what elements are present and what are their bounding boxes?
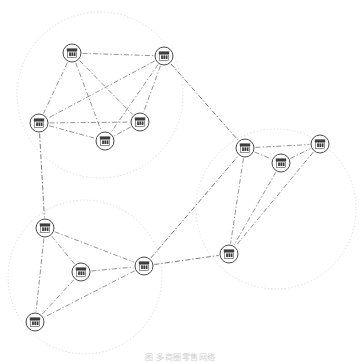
graph-node[interactable] bbox=[26, 313, 44, 331]
store-window-icon-3 bbox=[107, 140, 109, 144]
inter-cluster-edge bbox=[151, 156, 238, 258]
store-awning-icon bbox=[240, 143, 250, 146]
graph-node[interactable] bbox=[30, 114, 48, 132]
intra-cluster-edge bbox=[290, 149, 310, 159]
graph-node[interactable] bbox=[236, 139, 254, 157]
store-awning-icon bbox=[40, 223, 50, 226]
intra-cluster-edge bbox=[82, 53, 153, 55]
network-diagram-canvas: 图 多商圈零售网络 bbox=[0, 0, 361, 363]
store-window-icon-2 bbox=[143, 265, 145, 269]
store-awning-icon bbox=[100, 136, 110, 139]
inter-cluster-edge bbox=[40, 133, 45, 217]
graph-node[interactable] bbox=[63, 44, 81, 62]
store-window-icon-3 bbox=[283, 162, 285, 166]
store-window-icon-1 bbox=[78, 271, 80, 275]
store-window-icon-3 bbox=[142, 121, 144, 125]
store-window-icon-2 bbox=[228, 253, 230, 257]
store-window-icon-1 bbox=[317, 143, 319, 147]
intra-cluster-edge bbox=[49, 126, 95, 138]
store-window-icon-1 bbox=[141, 265, 143, 269]
network-graph bbox=[0, 0, 361, 363]
intra-cluster-edge bbox=[255, 145, 309, 148]
store-window-icon-1 bbox=[32, 321, 34, 325]
store-awning-icon bbox=[224, 249, 234, 252]
intra-cluster-edge bbox=[52, 236, 75, 264]
store-window-icon-3 bbox=[231, 253, 233, 257]
inter-cluster-edge bbox=[171, 64, 238, 140]
store-window-icon-3 bbox=[322, 143, 324, 147]
intra-cluster-edge bbox=[234, 172, 276, 245]
graph-node[interactable] bbox=[131, 113, 149, 131]
graph-node[interactable] bbox=[155, 47, 173, 65]
store-awning-icon bbox=[30, 317, 40, 320]
intra-cluster-edge bbox=[44, 271, 134, 317]
cluster-ring bbox=[196, 129, 356, 289]
inter-cluster-edge bbox=[154, 255, 218, 264]
store-window-icon-1 bbox=[278, 162, 280, 166]
store-window-icon-3 bbox=[166, 55, 168, 59]
intra-cluster-edge bbox=[231, 158, 244, 243]
cluster-ring bbox=[17, 12, 183, 178]
store-window-icon-1 bbox=[161, 55, 163, 59]
store-window-icon-2 bbox=[80, 271, 82, 275]
intra-cluster-edge bbox=[42, 280, 74, 315]
graph-node[interactable] bbox=[135, 257, 153, 275]
store-window-icon-2 bbox=[319, 143, 321, 147]
intra-cluster-edge bbox=[144, 66, 161, 112]
store-window-icon-3 bbox=[47, 227, 49, 231]
store-window-icon-3 bbox=[83, 271, 85, 275]
store-window-icon-1 bbox=[226, 253, 228, 257]
store-window-icon-2 bbox=[163, 55, 165, 59]
store-awning-icon bbox=[276, 158, 286, 161]
store-window-icon-1 bbox=[242, 147, 244, 151]
store-window-icon-1 bbox=[137, 121, 139, 125]
intra-cluster-edge bbox=[255, 152, 272, 159]
store-awning-icon bbox=[76, 267, 86, 270]
store-window-icon-2 bbox=[280, 162, 282, 166]
store-awning-icon bbox=[139, 261, 149, 264]
intra-cluster-edge bbox=[76, 63, 102, 131]
store-window-icon-2 bbox=[38, 122, 40, 126]
store-window-icon-3 bbox=[247, 147, 249, 151]
store-window-icon-2 bbox=[244, 147, 246, 151]
graph-node[interactable] bbox=[72, 263, 90, 281]
store-window-icon-2 bbox=[71, 52, 73, 56]
store-awning-icon bbox=[159, 51, 169, 54]
store-window-icon-1 bbox=[69, 52, 71, 56]
graph-node[interactable] bbox=[311, 135, 329, 153]
graph-node[interactable] bbox=[220, 245, 238, 263]
figure-caption: 图 多商圈零售网络 bbox=[0, 353, 361, 363]
store-window-icon-2 bbox=[139, 121, 141, 125]
intra-cluster-edge bbox=[43, 63, 67, 114]
intra-cluster-edge bbox=[91, 267, 133, 271]
intra-cluster-edge bbox=[114, 127, 131, 136]
graph-node[interactable] bbox=[36, 219, 54, 237]
store-window-icon-1 bbox=[102, 140, 104, 144]
store-window-icon-3 bbox=[37, 321, 39, 325]
store-awning-icon bbox=[315, 139, 325, 142]
store-awning-icon bbox=[34, 118, 44, 121]
intra-cluster-edge bbox=[55, 232, 134, 262]
store-window-icon-3 bbox=[146, 265, 148, 269]
graph-node[interactable] bbox=[272, 154, 290, 172]
store-window-icon-1 bbox=[36, 122, 38, 126]
cluster-ring-layer bbox=[8, 12, 356, 354]
store-awning-icon bbox=[67, 48, 77, 51]
intra-cluster-edge bbox=[36, 238, 44, 311]
store-window-icon-2 bbox=[104, 140, 106, 144]
store-window-icon-3 bbox=[74, 52, 76, 56]
store-window-icon-1 bbox=[42, 227, 44, 231]
store-window-icon-2 bbox=[44, 227, 46, 231]
store-window-icon-3 bbox=[41, 122, 43, 126]
store-window-icon-2 bbox=[34, 321, 36, 325]
graph-node[interactable] bbox=[96, 132, 114, 150]
store-awning-icon bbox=[135, 117, 145, 120]
